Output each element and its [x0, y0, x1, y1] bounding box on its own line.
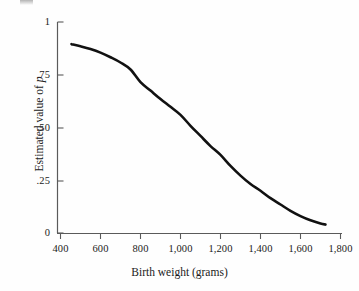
x-tick-label-1000: 1,000: [159, 243, 203, 254]
y-axis-title: Estimated value of p: [33, 24, 45, 224]
figure-canvas: 1 .75 .50 .25 0 400 600 800 1,000 1,200 …: [0, 0, 359, 291]
x-axis-title: Birth weight (grams): [0, 266, 359, 278]
y-axis-ticks: [58, 22, 64, 233]
y-tick-label-0: 0: [16, 228, 50, 239]
y-axis-title-text: Estimated value of: [33, 82, 45, 171]
data-series-line: [72, 44, 326, 224]
x-tick-label-1200: 1,200: [199, 243, 243, 254]
x-tick-label-1800: 1,800: [319, 243, 359, 254]
x-tick-label-600: 600: [79, 243, 123, 254]
x-tick-label-400: 400: [39, 243, 83, 254]
y-axis-title-variable: p: [33, 77, 45, 83]
x-axis-ticks: [61, 234, 341, 240]
x-tick-label-1400: 1,400: [239, 243, 283, 254]
x-tick-label-800: 800: [119, 243, 163, 254]
x-tick-label-1600: 1,600: [279, 243, 323, 254]
